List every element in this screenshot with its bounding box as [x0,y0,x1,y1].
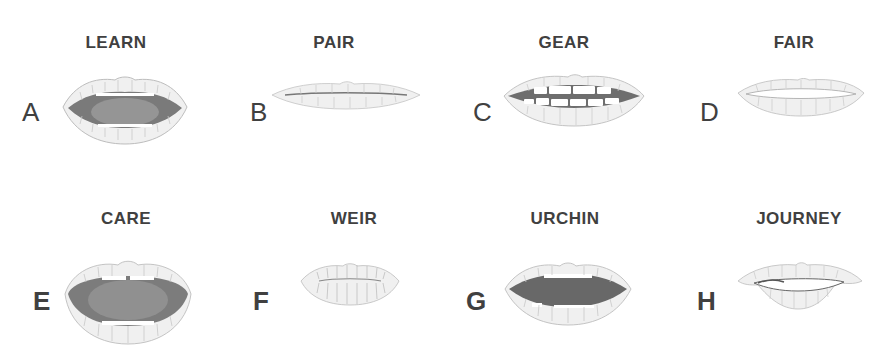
word-label: URCHIN [530,209,599,229]
panel-letter: F [253,288,269,314]
mouth-rounded-small-illustration [299,261,401,307]
word-label: FAIR [774,33,815,53]
panel-letter: B [250,99,267,125]
mouth-pouted-illustration [736,261,864,311]
panel-letter: H [697,288,716,314]
panel-letter: D [700,99,719,125]
panel-letter: E [33,288,50,314]
word-label: WEIR [331,209,377,229]
mouth-open-wide-illustration [62,256,194,346]
mouth-teeth-spread-illustration [502,72,646,128]
mouth-open-oval-illustration [502,259,634,327]
mouth-closed-flat-illustration [270,80,422,110]
word-label: PAIR [313,33,354,53]
panel-letter: C [473,99,492,125]
panel-letter: A [22,99,39,125]
word-label: GEAR [538,33,589,53]
word-label: CARE [101,209,151,229]
word-label: LEARN [85,33,146,53]
word-label: JOURNEY [756,209,842,229]
panel-letter: G [466,288,486,314]
mouth-slightly-open-illustration [736,76,866,118]
mouth-open-medium-illustration [60,72,190,146]
